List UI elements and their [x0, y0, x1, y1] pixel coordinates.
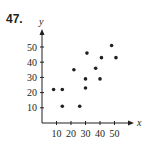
x-axis-arrow-icon	[128, 121, 134, 126]
x-tick-label: 30	[81, 128, 91, 139]
x-axis-label: x	[136, 117, 142, 128]
y-tick-label: 40	[27, 57, 37, 68]
y-axis-label: y	[38, 16, 44, 27]
axis-ticks: 10203040501020304050	[27, 42, 120, 140]
data-point	[98, 77, 102, 81]
data-point	[72, 68, 76, 72]
x-tick-label: 20	[66, 128, 76, 139]
y-tick-label: 10	[27, 102, 37, 113]
y-axis-arrow-icon	[40, 29, 45, 35]
data-points	[52, 44, 118, 108]
x-tick-label: 50	[110, 128, 120, 139]
data-point	[85, 51, 89, 55]
data-point	[52, 88, 56, 92]
data-point	[94, 66, 98, 70]
data-point	[114, 56, 118, 60]
axes: xy	[38, 16, 142, 128]
x-tick-label: 40	[95, 128, 105, 139]
scatter-plot: xy 10203040501020304050	[0, 0, 147, 146]
data-point	[110, 44, 114, 48]
y-tick-label: 50	[27, 42, 37, 53]
y-tick-label: 20	[27, 87, 37, 98]
data-point	[61, 88, 65, 92]
data-point	[84, 77, 88, 81]
data-point	[78, 104, 82, 108]
data-point	[61, 104, 65, 108]
y-tick-label: 30	[27, 72, 37, 83]
data-point	[84, 86, 88, 90]
data-point	[100, 56, 104, 60]
x-tick-label: 10	[52, 128, 62, 139]
